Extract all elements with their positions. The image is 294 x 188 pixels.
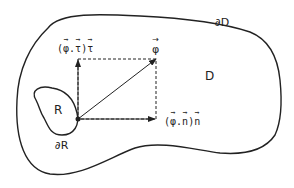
n-unit-vector: n	[194, 117, 200, 127]
normal-component-label: (φ.n)n	[164, 117, 200, 127]
tau-symbol: τ	[75, 44, 81, 54]
outer-boundary-label: ∂D	[215, 17, 229, 28]
tau-unit-vector: τ	[87, 44, 93, 54]
inner-boundary-label: ∂R	[55, 140, 68, 151]
phi-symbol: φ	[152, 44, 159, 55]
inner-region-label: R	[54, 104, 62, 116]
phi-symbol: φ	[170, 117, 176, 127]
diagram-canvas: ∂D D R ∂R φ (φ.τ)τ (φ.n)n	[0, 0, 294, 188]
n-symbol: n	[182, 117, 188, 127]
phi-vector-label: φ	[152, 44, 159, 55]
phi-symbol: φ	[63, 44, 69, 54]
diagram-figure	[0, 0, 294, 188]
outer-region-label: D	[205, 70, 214, 82]
base-point	[76, 117, 81, 122]
phi-vector-arrow	[78, 59, 156, 119]
tangential-component-label: (φ.τ)τ	[57, 44, 93, 54]
